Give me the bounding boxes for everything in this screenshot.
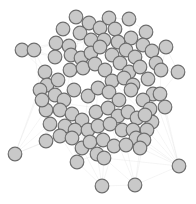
graph-node xyxy=(133,141,147,155)
graph-node xyxy=(67,83,81,97)
graph-node xyxy=(95,179,109,193)
graph-node xyxy=(139,25,153,39)
graph-node xyxy=(171,65,185,79)
graph-node xyxy=(138,108,152,122)
graph-node xyxy=(51,73,65,87)
graph-node xyxy=(154,63,168,77)
graph-node xyxy=(63,63,77,77)
graph-node xyxy=(39,134,53,148)
graph-node xyxy=(119,138,133,152)
graph-node xyxy=(91,119,105,133)
graph-node xyxy=(83,135,97,149)
graph-node xyxy=(128,178,142,192)
graph-node xyxy=(153,87,167,101)
graph-node xyxy=(8,147,22,161)
graph-node xyxy=(38,65,52,79)
graph-node xyxy=(124,83,138,97)
graph-node xyxy=(141,72,155,86)
graph-node xyxy=(108,22,122,36)
graph-node xyxy=(49,36,63,50)
graph-node xyxy=(27,43,41,57)
graph-node xyxy=(69,10,83,24)
graph-node xyxy=(158,100,172,114)
graph-node xyxy=(93,40,107,54)
graph-node xyxy=(48,50,62,64)
graph-node xyxy=(97,151,111,165)
graph-node xyxy=(53,129,67,143)
graph-node xyxy=(133,60,147,74)
graph-node xyxy=(56,22,70,36)
graph-node xyxy=(122,12,136,26)
graph-node xyxy=(35,93,49,107)
graph-node xyxy=(65,131,79,145)
network-graph xyxy=(0,0,196,204)
graph-node xyxy=(43,117,57,131)
graph-node xyxy=(159,40,173,54)
graph-node xyxy=(70,155,84,169)
graph-node xyxy=(172,159,186,173)
